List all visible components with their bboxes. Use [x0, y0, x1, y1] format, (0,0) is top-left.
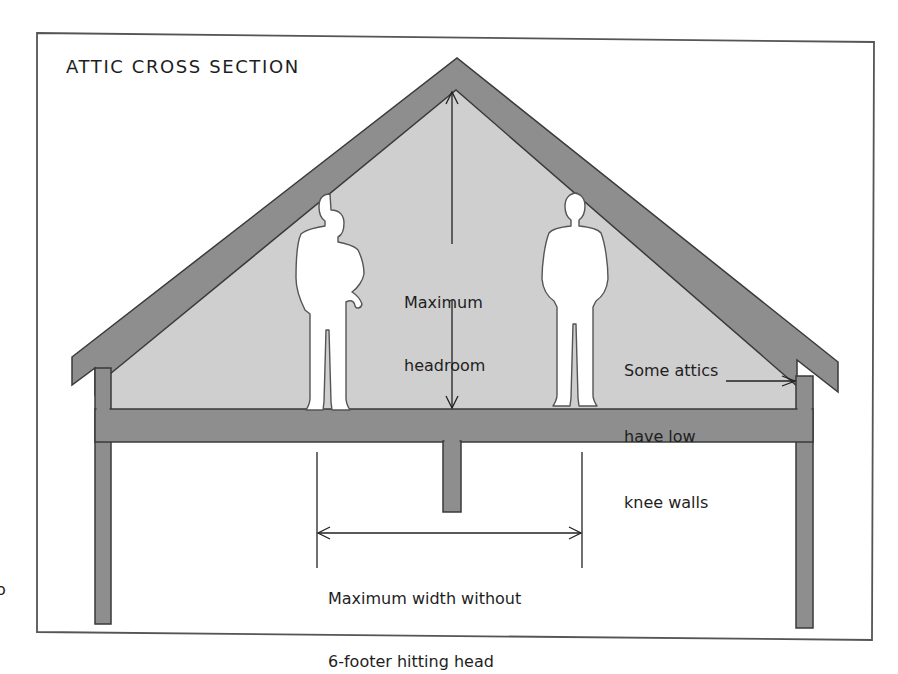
- knee-walls-label-line1: Some attics: [624, 360, 718, 382]
- knee-walls-label-line2: have low: [624, 426, 718, 448]
- max-width-label: Maximum width without 6-footer hitting h…: [328, 546, 521, 674]
- center-post: [443, 441, 461, 512]
- diagram-title: ATTIC CROSS SECTION: [66, 56, 300, 77]
- max-width-label-line2: 6-footer hitting head: [328, 651, 521, 672]
- headroom-label-line1: Maximum: [404, 292, 485, 313]
- headroom-label-line2: headroom: [404, 355, 485, 376]
- headroom-label: Maximum headroom: [404, 250, 485, 418]
- knee-walls-label-line3: knee walls: [624, 492, 718, 514]
- knee-walls-label: Some attics have low knee walls: [624, 316, 718, 558]
- stray-glyph: o: [0, 580, 6, 599]
- max-width-label-line1: Maximum width without: [328, 588, 521, 609]
